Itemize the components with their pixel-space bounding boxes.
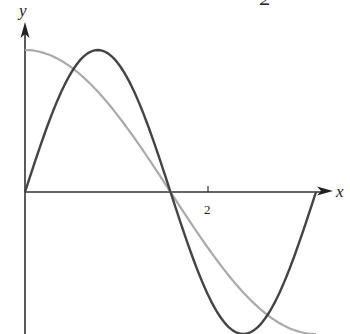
x-axis-label: x bbox=[335, 182, 344, 201]
chart-canvas: y x 2 2 bbox=[0, 0, 350, 334]
top-fragment-text: 2 bbox=[260, 0, 271, 10]
x-axis-arrow-icon bbox=[317, 187, 333, 196]
x-tick-label-2: 2 bbox=[204, 202, 211, 217]
y-axis-label: y bbox=[17, 1, 27, 20]
